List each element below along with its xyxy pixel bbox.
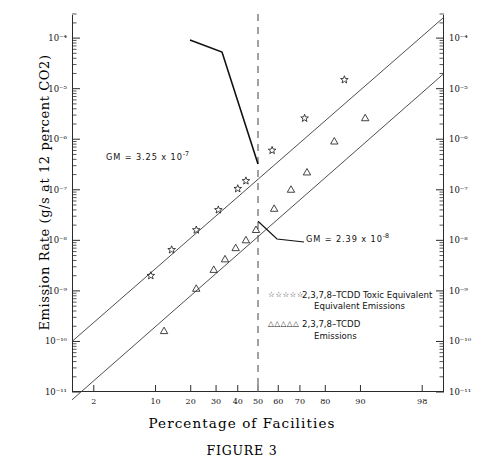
data-point-star <box>147 272 155 279</box>
data-point-triangle <box>287 186 294 192</box>
y-tick-label: 10⁻⁷ <box>449 185 468 195</box>
legend-star-marker: ☆☆☆☆☆ <box>268 290 302 299</box>
x-tick-label: 98 <box>417 397 427 406</box>
y-tick-label: 10⁻⁶ <box>449 134 468 144</box>
data-point-triangle <box>221 255 228 261</box>
data-point-star <box>268 146 276 153</box>
data-point-triangle <box>252 226 259 232</box>
data-point-star <box>242 177 250 184</box>
gm-lower-leader <box>258 221 304 242</box>
y-tick-label: 10⁻⁸ <box>48 235 67 245</box>
legend-label-line2: Emissions <box>302 331 360 342</box>
y-tick-label: 10⁻¹⁰ <box>449 336 471 346</box>
gm-upper-annotation: GM = 3.25 x 10-7 <box>106 150 189 162</box>
gm-upper-text: GM = 3.25 x 10 <box>106 152 183 162</box>
y-tick-label: 10⁻⁷ <box>48 185 67 195</box>
legend-label: 2,3,7,8–TCDD Toxic EquivalentEquivalent … <box>302 290 432 312</box>
gm-lower-text: GM = 2.39 x 10 <box>306 234 383 244</box>
y-tick-label: 10⁻⁹ <box>449 286 468 296</box>
data-point-triangle <box>303 168 310 174</box>
data-point-star <box>341 76 349 83</box>
y-tick-label: 10⁻⁵ <box>48 84 67 94</box>
plot-area: 10⁻⁴10⁻⁵10⁻⁶10⁻⁷10⁻⁸10⁻⁹10⁻¹⁰10⁻¹¹ 10⁻⁴1… <box>72 14 444 392</box>
y-tick-label: 10⁻¹¹ <box>449 387 471 397</box>
y-tick-label: 10⁻⁴ <box>48 33 67 43</box>
legend-label: 2,3,7,8–TCDDEmissions <box>302 319 360 341</box>
y-tick-label: 10⁻⁵ <box>449 84 468 94</box>
legend-label-line1: 2,3,7,8–TCDD <box>302 319 360 329</box>
x-tick-label: 60 <box>273 397 283 406</box>
data-point-star <box>234 185 242 192</box>
x-axis-title: Percentage of Facilities <box>0 415 484 431</box>
y-tick-label: 10⁻⁸ <box>449 235 468 245</box>
x-tick-label: 20 <box>186 397 196 406</box>
figure-3-chart: Emission Rate (g/s at 12 percent CO2) 10… <box>0 0 484 470</box>
y-tick-label: 10⁻¹¹ <box>45 387 67 397</box>
x-tick-label: 2 <box>91 397 96 406</box>
data-point-triangle <box>232 244 239 250</box>
data-point-triangle <box>242 236 249 242</box>
data-point-triangle <box>210 266 217 272</box>
data-point-triangle <box>362 114 369 120</box>
data-point-star <box>301 114 309 121</box>
data-point-star <box>192 226 200 233</box>
gm-lower-exponent: -8 <box>383 232 389 240</box>
gm-upper-exponent: -7 <box>183 150 189 158</box>
gm-lower-annotation: GM = 2.39 x 10-8 <box>306 232 389 244</box>
y-tick-label: 10⁻⁹ <box>48 286 67 296</box>
chart-legend: ☆☆☆☆☆2,3,7,8–TCDD Toxic EquivalentEquiva… <box>268 290 432 349</box>
legend-triangle-marker: △△△△△ <box>268 319 302 328</box>
x-tick-label: 80 <box>320 397 330 406</box>
y-tick-label: 10⁻⁴ <box>449 33 468 43</box>
data-point-triangle <box>331 138 338 144</box>
y-tick-label: 10⁻¹⁰ <box>45 336 67 346</box>
data-point-triangle <box>160 327 167 333</box>
legend-item: △△△△△2,3,7,8–TCDDEmissions <box>268 319 432 341</box>
legend-item: ☆☆☆☆☆2,3,7,8–TCDD Toxic EquivalentEquiva… <box>268 290 432 312</box>
figure-caption: FIGURE 3 <box>0 443 484 458</box>
legend-label-line1: 2,3,7,8–TCDD Toxic Equivalent <box>302 290 432 300</box>
data-point-triangle <box>270 205 277 211</box>
legend-label-line2: Equivalent Emissions <box>302 301 432 312</box>
x-tick-label: 10 <box>150 397 160 406</box>
x-tick-label: 90 <box>355 397 365 406</box>
x-tick-label: 30 <box>211 397 221 406</box>
y-tick-label: 10⁻⁶ <box>48 134 67 144</box>
gm-upper-leader <box>190 40 258 164</box>
x-tick-label: 40 <box>233 397 243 406</box>
x-tick-label: 70 <box>295 397 305 406</box>
x-tick-label: 50 <box>253 397 263 406</box>
